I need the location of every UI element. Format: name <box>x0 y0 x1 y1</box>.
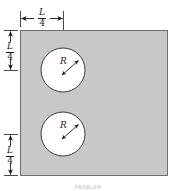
left-upper-dimension-denominator: 4 <box>3 53 17 62</box>
top-dimension-label: L 4 <box>35 8 49 28</box>
lower-hole-radius-label: R <box>60 121 67 130</box>
figure-caption: PROBLEM <box>0 185 176 190</box>
square-plate <box>21 31 168 176</box>
upper-hole-radius-label: R <box>60 57 67 66</box>
left-lower-dimension-label: L 4 <box>3 146 17 166</box>
top-dimension-numerator: L <box>35 8 49 17</box>
left-upper-dimension-label: L 4 <box>3 42 17 62</box>
left-upper-dimension-numerator: L <box>3 42 17 51</box>
lower-hole <box>41 112 85 156</box>
upper-hole <box>41 48 85 92</box>
top-dimension-denominator: 4 <box>35 19 49 28</box>
left-lower-dimension-numerator: L <box>3 146 17 155</box>
figure-canvas <box>0 0 176 191</box>
engineering-figure: L 4 L 4 L 4 R R PROBLEM <box>0 0 176 191</box>
left-lower-dimension-denominator: 4 <box>3 157 17 166</box>
